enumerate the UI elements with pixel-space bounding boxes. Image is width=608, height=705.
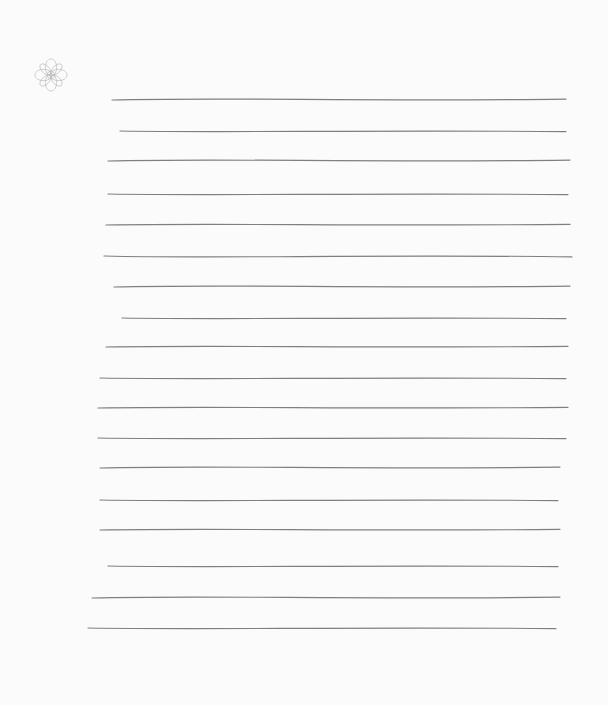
ruled-line — [112, 99, 566, 100]
ruled-lines — [0, 0, 608, 705]
ruled-line — [100, 378, 566, 379]
ruled-line — [104, 256, 572, 257]
ruled-line — [100, 529, 560, 530]
ruled-line — [108, 160, 570, 161]
ruled-line — [120, 131, 566, 132]
ruled-line — [88, 628, 556, 629]
ruled-line — [92, 597, 560, 598]
ruled-line — [122, 318, 566, 319]
ruled-line — [100, 467, 560, 468]
ruled-line — [114, 286, 570, 287]
ruled-line — [98, 407, 568, 408]
ruled-line — [108, 566, 558, 567]
ruled-line — [106, 224, 570, 225]
ruled-line — [106, 346, 568, 347]
ruled-line — [108, 194, 568, 195]
ruled-line — [98, 438, 566, 439]
lined-paper-page — [0, 0, 608, 705]
ruled-line — [100, 500, 558, 501]
